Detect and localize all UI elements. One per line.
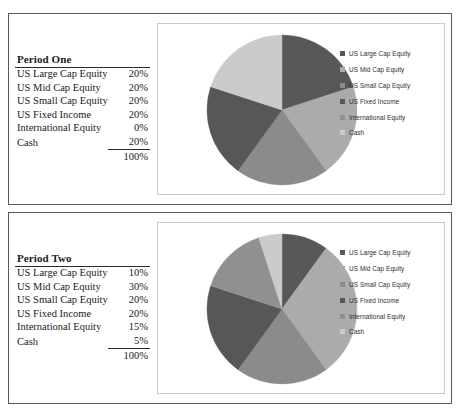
legend-swatch-icon (340, 130, 345, 135)
asset-value: 20% (108, 135, 150, 149)
asset-label: Cash (15, 334, 108, 348)
period-one-chart-box: US Large Cap Equity US Mid Cap Equity US… (157, 23, 445, 195)
period-one-panel: Period One US Large Cap Equity 20% US Mi… (8, 13, 452, 205)
pie-slices (207, 234, 357, 384)
pie-slices (207, 35, 357, 185)
asset-label: US Large Cap Equity (15, 266, 108, 280)
pie-chart-svg (206, 233, 358, 385)
asset-label: US Mid Cap Equity (15, 81, 108, 95)
asset-value: 30% (108, 280, 150, 294)
legend-item: US Large Cap Equity (340, 245, 438, 261)
asset-value: 20% (108, 95, 150, 109)
report-page: Period One US Large Cap Equity 20% US Mi… (0, 0, 462, 412)
asset-value: 20% (108, 81, 150, 95)
total-value: 100% (108, 150, 150, 164)
period-one-pie (206, 34, 358, 186)
table-row: US Fixed Income 20% (15, 108, 150, 122)
period-two-chart-box: US Large Cap Equity US Mid Cap Equity US… (157, 222, 445, 394)
legend-label: US Small Cap Equity (349, 82, 410, 89)
legend-label: Cash (349, 328, 364, 335)
legend-label: International Equity (349, 313, 405, 320)
legend-item: Cash (340, 125, 438, 141)
asset-label: US Large Cap Equity (15, 67, 108, 81)
period-two-table-wrap: Period Two US Large Cap Equity 10% US Mi… (15, 251, 150, 363)
legend-label: International Equity (349, 114, 405, 121)
table-body: Period Two US Large Cap Equity 10% US Mi… (15, 251, 150, 363)
period-title: Period One (15, 52, 150, 67)
asset-value: 5% (108, 334, 150, 348)
asset-label: International Equity (15, 122, 108, 136)
asset-value: 20% (108, 108, 150, 122)
period-two-allocation-table: Period Two US Large Cap Equity 10% US Mi… (15, 251, 150, 363)
legend-item: US Small Cap Equity (340, 277, 438, 293)
legend-item: US Mid Cap Equity (340, 261, 438, 277)
legend-item: International Equity (340, 109, 438, 125)
table-row: US Mid Cap Equity 20% (15, 81, 150, 95)
legend-label: US Small Cap Equity (349, 281, 410, 288)
legend-item: US Fixed Income (340, 93, 438, 109)
asset-label: Cash (15, 135, 108, 149)
table-total-row: 100% (15, 150, 150, 164)
table-row: Cash 5% (15, 334, 150, 348)
table-row: US Mid Cap Equity 30% (15, 280, 150, 294)
period-one-legend: US Large Cap Equity US Mid Cap Equity US… (340, 46, 438, 141)
period-one-allocation-table: Period One US Large Cap Equity 20% US Mi… (15, 52, 150, 164)
legend-item: US Large Cap Equity (340, 46, 438, 62)
legend-swatch-icon (340, 115, 345, 120)
table-title-row: Period Two (15, 251, 150, 266)
legend-label: US Mid Cap Equity (349, 66, 404, 73)
legend-swatch-icon (340, 329, 345, 334)
table-row: US Small Cap Equity 20% (15, 294, 150, 308)
table-row: US Fixed Income 20% (15, 307, 150, 321)
total-value: 100% (108, 349, 150, 363)
period-two-pie (206, 233, 358, 385)
legend-item: US Small Cap Equity (340, 78, 438, 94)
legend-item: US Fixed Income (340, 292, 438, 308)
asset-value: 15% (108, 321, 150, 335)
table-row: Cash 20% (15, 135, 150, 149)
legend-label: US Fixed Income (349, 98, 399, 105)
asset-label: International Equity (15, 321, 108, 335)
asset-label: US Mid Cap Equity (15, 280, 108, 294)
legend-swatch-icon (340, 67, 345, 72)
table-total-row: 100% (15, 349, 150, 363)
asset-label: US Fixed Income (15, 108, 108, 122)
total-label (15, 150, 108, 164)
legend-label: US Mid Cap Equity (349, 265, 404, 272)
asset-value: 10% (108, 266, 150, 280)
asset-value: 20% (108, 294, 150, 308)
legend-label: US Fixed Income (349, 297, 399, 304)
pie-chart-svg (206, 34, 358, 186)
total-label (15, 349, 108, 363)
legend-swatch-icon (340, 314, 345, 319)
table-row: US Large Cap Equity 10% (15, 266, 150, 280)
period-one-table-wrap: Period One US Large Cap Equity 20% US Mi… (15, 52, 150, 164)
table-title-row: Period One (15, 52, 150, 67)
asset-label: US Small Cap Equity (15, 294, 108, 308)
legend-swatch-icon (340, 99, 345, 104)
asset-value: 0% (108, 122, 150, 136)
table-row: International Equity 15% (15, 321, 150, 335)
asset-label: US Fixed Income (15, 307, 108, 321)
legend-item: International Equity (340, 308, 438, 324)
legend-swatch-icon (340, 266, 345, 271)
period-two-panel: Period Two US Large Cap Equity 10% US Mi… (8, 212, 452, 404)
legend-swatch-icon (340, 51, 345, 56)
asset-value: 20% (108, 307, 150, 321)
legend-item: US Mid Cap Equity (340, 62, 438, 78)
legend-swatch-icon (340, 298, 345, 303)
legend-swatch-icon (340, 250, 345, 255)
legend-item: Cash (340, 324, 438, 340)
period-title: Period Two (15, 251, 150, 266)
legend-label: US Large Cap Equity (349, 50, 411, 57)
legend-label: Cash (349, 129, 364, 136)
table-row: US Large Cap Equity 20% (15, 67, 150, 81)
legend-swatch-icon (340, 83, 345, 88)
table-row: International Equity 0% (15, 122, 150, 136)
asset-label: US Small Cap Equity (15, 95, 108, 109)
period-two-legend: US Large Cap Equity US Mid Cap Equity US… (340, 245, 438, 340)
asset-value: 20% (108, 67, 150, 81)
table-body: Period One US Large Cap Equity 20% US Mi… (15, 52, 150, 164)
legend-swatch-icon (340, 282, 345, 287)
legend-label: US Large Cap Equity (349, 249, 411, 256)
